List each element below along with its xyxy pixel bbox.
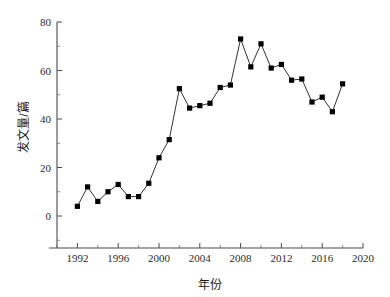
data-point-2005 [207, 101, 212, 106]
data-point-2001 [167, 137, 172, 142]
data-point-2010 [258, 41, 263, 46]
x-tick-label-2004: 2004 [189, 252, 212, 264]
data-point-2002 [177, 86, 182, 91]
data-point-1996 [116, 182, 121, 187]
data-point-2009 [248, 64, 253, 69]
data-point-1993 [85, 184, 90, 189]
data-point-1992 [75, 204, 80, 209]
data-point-2011 [269, 65, 274, 70]
data-point-2006 [218, 85, 223, 90]
data-point-1998 [136, 194, 141, 199]
data-point-2008 [238, 36, 243, 41]
data-point-2000 [156, 155, 161, 160]
x-tick-label-1996: 1996 [107, 252, 130, 264]
x-tick-label-2020: 2020 [352, 252, 375, 264]
publication-count-line-chart: 0204060801992199620002004200820122016202… [0, 0, 390, 297]
y-tick-label-20: 20 [40, 162, 52, 174]
data-point-1994 [95, 199, 100, 204]
data-point-1995 [105, 189, 110, 194]
data-point-2016 [320, 95, 325, 100]
data-point-2018 [340, 81, 345, 86]
data-point-2017 [330, 109, 335, 114]
y-tick-label-80: 80 [40, 16, 52, 28]
series-line-publications [77, 39, 342, 206]
x-tick-label-2000: 2000 [148, 252, 171, 264]
data-point-1999 [146, 181, 151, 186]
data-point-2015 [309, 99, 314, 104]
y-tick-label-40: 40 [40, 113, 52, 125]
data-point-2014 [299, 76, 304, 81]
x-tick-label-2012: 2012 [270, 252, 292, 264]
data-point-1997 [126, 194, 131, 199]
data-point-2003 [187, 105, 192, 110]
y-tick-label-60: 60 [40, 65, 52, 77]
data-point-2012 [279, 62, 284, 67]
y-tick-label-0: 0 [46, 210, 52, 222]
data-point-2007 [228, 82, 233, 87]
x-tick-label-2008: 2008 [230, 252, 253, 264]
data-point-2004 [197, 103, 202, 108]
x-axis-title: 年份 [198, 278, 222, 292]
y-axis-title: 发文量/篇 [16, 101, 31, 152]
x-tick-label-1992: 1992 [66, 252, 88, 264]
x-tick-label-2016: 2016 [311, 252, 334, 264]
data-point-2013 [289, 78, 294, 83]
